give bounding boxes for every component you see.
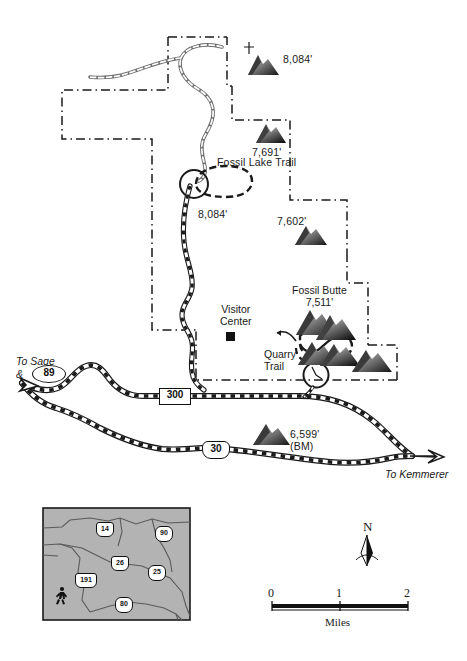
visitor-center-label-line2: Center (220, 315, 252, 327)
inset-shield-90-number: 90 (156, 527, 172, 539)
inset-shield-14-number: 14 (97, 523, 113, 534)
north-arrow-label: N (363, 519, 372, 535)
trailhead-circle-fossil-lake (180, 170, 208, 198)
elevation-label-8084-north: 8,084' (283, 53, 312, 65)
map-canvas: 8,084' 7,691' 8,084' 7,602' 6,599' (BM) … (0, 0, 467, 661)
shield-us-30-number: 30 (203, 442, 229, 455)
shield-state-300[interactable]: 300 (159, 388, 191, 405)
visitor-center-label: Visitor Center (220, 303, 252, 327)
north-arrow-graphic (356, 535, 378, 566)
to-kemmerer-arrow (410, 450, 444, 463)
peak-icon-7691 (256, 124, 286, 143)
inset-shield-80-number: 80 (116, 598, 132, 610)
fossil-butte-label-line2: 7,511' (292, 296, 347, 308)
shield-us-89[interactable]: 89 (32, 365, 66, 383)
elevation-label-7602: 7,602' (277, 215, 306, 227)
fossil-lake-trail (90, 45, 222, 181)
quarry-trail-label: Quarry Trail (264, 348, 296, 372)
ampersand-label: & (16, 368, 23, 380)
peak-symbols (244, 42, 392, 445)
shield-us-89-number: 89 (33, 366, 65, 379)
scale-bar-graphic (272, 601, 408, 611)
inset-shield-26: 26 (111, 556, 129, 571)
scale-units-label: Miles (325, 616, 350, 628)
inset-shield-14: 14 (96, 522, 114, 537)
elevation-label-6599: 6,599' (290, 428, 319, 440)
peak-icon-8084-north (248, 55, 279, 75)
inset-shield-80: 80 (115, 597, 133, 613)
visitor-center-marker (226, 332, 235, 341)
scale-tick-0: 0 (268, 586, 274, 601)
benchmark-label: (BM) (290, 440, 314, 452)
inset-shield-25-number: 25 (149, 566, 165, 578)
inset-shield-191-number: 191 (76, 574, 96, 585)
shield-state-300-number: 300 (160, 389, 190, 401)
to-kemmerer-label: To Kemmerer (385, 468, 448, 480)
fossil-butte-label: Fossil Butte 7,511' (292, 284, 347, 308)
elevation-label-8084-lake: 8,084' (198, 208, 227, 220)
inset-shield-191: 191 (75, 573, 97, 588)
scale-tick-1: 1 (336, 586, 342, 601)
fossil-lake-trail-label: Fossil Lake Trail (217, 156, 296, 168)
quarry-trail-label-line2: Trail (264, 360, 296, 372)
inset-shield-25: 25 (148, 565, 166, 581)
peak-icon-east-outlier (352, 350, 392, 372)
inset-shield-26-number: 26 (112, 557, 128, 568)
visitor-center-label-line1: Visitor (220, 303, 252, 315)
peak-icon-6599 (253, 424, 290, 445)
shield-us-30[interactable]: 30 (202, 441, 230, 459)
fossil-butte-label-line1: Fossil Butte (292, 284, 347, 296)
quarry-trail-label-line1: Quarry (264, 348, 296, 360)
scale-tick-2: 2 (404, 586, 410, 601)
inset-shield-90: 90 (155, 526, 173, 542)
fossil-lake-outline (180, 166, 252, 198)
map-artwork (0, 0, 467, 661)
peak-icon-7602 (295, 226, 327, 245)
peak-icon-fossil-butte (296, 310, 356, 340)
